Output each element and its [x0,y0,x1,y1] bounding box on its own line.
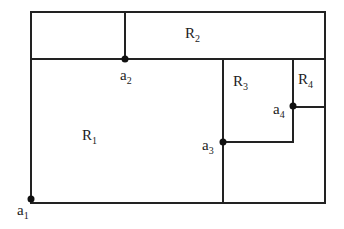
label-r2: R2 [185,26,200,44]
rectangle-partition-diagram: R1 R2 R3 R4 a1 a2 a3 a4 [0,0,344,229]
point-a1 [28,196,35,203]
point-a3 [220,139,227,146]
label-a2: a2 [120,68,132,86]
label-r3: R3 [233,74,248,92]
label-a1: a1 [17,203,29,221]
label-a3: a3 [202,138,214,156]
label-r4: R4 [298,72,313,90]
diagram-lines [0,0,344,229]
point-a2 [122,56,129,63]
point-a4 [290,103,297,110]
label-r1: R1 [82,128,97,146]
label-a4: a4 [273,102,285,120]
